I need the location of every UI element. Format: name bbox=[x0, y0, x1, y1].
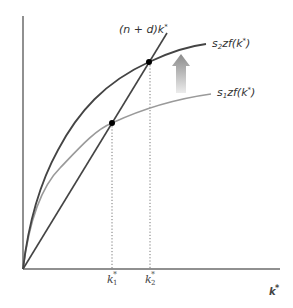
s1-curve-label: s1zf(k*) bbox=[217, 87, 255, 100]
shift-up-arrow-icon bbox=[172, 54, 190, 93]
break-even-line-label: (n + d)k* bbox=[119, 24, 168, 35]
break-even-line bbox=[23, 33, 167, 269]
x-axis-label: k* bbox=[269, 287, 276, 297]
k2-tick-label: k*2 bbox=[145, 274, 152, 285]
equilibrium-point-k1 bbox=[109, 120, 115, 126]
s2-curve-label: s2zf(k*) bbox=[212, 38, 250, 51]
equilibrium-point-k2 bbox=[146, 59, 152, 65]
k1-tick-label: k*1 bbox=[107, 274, 114, 285]
s1-savings-curve bbox=[23, 94, 211, 269]
